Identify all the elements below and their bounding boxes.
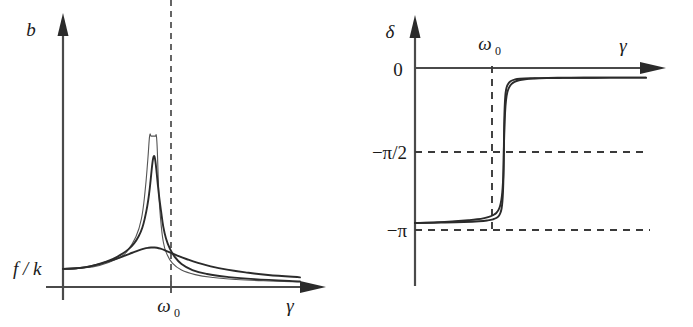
amplitude-baseline-label: f / k — [13, 258, 42, 279]
amplitude-curve-group — [63, 134, 300, 282]
phase-resonance-label: ω — [478, 33, 491, 54]
phase-half-pi-label: −π/2 — [372, 142, 407, 163]
phase-y-axis-label: δ — [386, 21, 396, 42]
curve-moderate-damping — [415, 78, 646, 223]
phase-zero-label: 0 — [393, 59, 403, 80]
phase-y-axis-arrow-icon — [410, 15, 421, 38]
phase-chart-panel: δ γ 0 −π/2 −π ω 0 — [346, 0, 693, 327]
amplitude-resonance-label: ω — [157, 295, 170, 316]
curve-undamped — [63, 134, 300, 282]
phase-chart-svg: δ γ 0 −π/2 −π ω 0 — [346, 0, 693, 327]
amplitude-x-axis-label: γ — [286, 295, 294, 316]
resonance-figure: b γ f / k ω 0 δ γ 0 −π — [0, 0, 693, 327]
amplitude-y-axis-arrow-icon — [58, 13, 69, 36]
amplitude-chart-panel: b γ f / k ω 0 — [0, 0, 346, 327]
amplitude-chart-svg: b γ f / k ω 0 — [0, 0, 346, 327]
amplitude-x-axis-arrow-icon — [300, 281, 326, 293]
curve-light-damping — [415, 78, 646, 223]
phase-x-axis-arrow-icon — [640, 62, 666, 74]
amplitude-resonance-sublabel: 0 — [174, 306, 180, 320]
curve-light-damping — [63, 156, 300, 281]
phase-resonance-sublabel: 0 — [495, 44, 501, 58]
phase-x-axis-label: γ — [619, 35, 627, 56]
phase-curve-group — [415, 78, 646, 223]
amplitude-y-axis-label: b — [26, 19, 36, 40]
curve-heavy-damping — [63, 247, 300, 277]
phase-pi-label: −π — [387, 220, 408, 241]
